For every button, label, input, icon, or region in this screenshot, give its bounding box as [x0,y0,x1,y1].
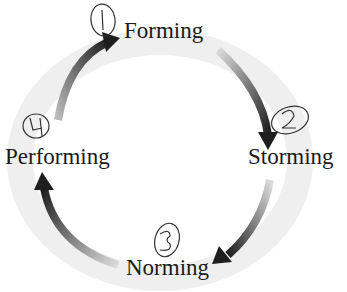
handwritten-number-1 [89,2,117,37]
stage-label-storming: Storming [248,145,334,168]
handwritten-number-3 [151,220,183,259]
stage-label-norming: Norming [126,256,209,279]
stage-label-forming: Forming [124,19,203,42]
stage-label-performing: Performing [5,145,110,168]
cycle-diagram: Forming Storming Norming Performing [0,0,347,292]
